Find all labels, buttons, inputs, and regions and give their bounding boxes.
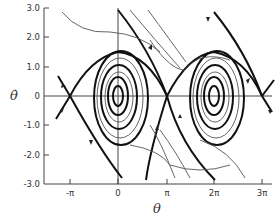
y-axis-label: θ̇ — [10, 88, 18, 103]
svg-text:2.0: 2.0 — [26, 32, 40, 42]
arrows — [60, 17, 272, 145]
x-tick-labels: -π 0 π 2π 3π — [66, 188, 267, 198]
axes — [44, 8, 272, 184]
svg-text:3.0: 3.0 — [26, 3, 40, 13]
trajectories — [62, 10, 245, 178]
phase-portrait-figure: 3.0 2.0 1.0 0 -1.0 -2.0 -3.0 -π 0 π 2π 3… — [0, 0, 279, 219]
svg-text:π: π — [164, 188, 169, 198]
x-axis-label: θ — [153, 201, 161, 216]
svg-text:-2.0: -2.0 — [23, 150, 40, 160]
y-tick-labels: 3.0 2.0 1.0 0 -1.0 -2.0 -3.0 — [23, 3, 40, 189]
spiral-focus-2pi — [190, 51, 244, 145]
svg-text:-1.0: -1.0 — [23, 120, 40, 130]
svg-text:2π: 2π — [209, 188, 220, 198]
svg-text:0: 0 — [115, 188, 120, 198]
spiral-focus-0 — [94, 51, 148, 145]
svg-text:-3.0: -3.0 — [23, 179, 40, 189]
svg-text:-π: -π — [66, 188, 74, 198]
svg-text:0: 0 — [35, 91, 40, 101]
svg-text:3π: 3π — [257, 188, 268, 198]
svg-text:1.0: 1.0 — [26, 62, 40, 72]
